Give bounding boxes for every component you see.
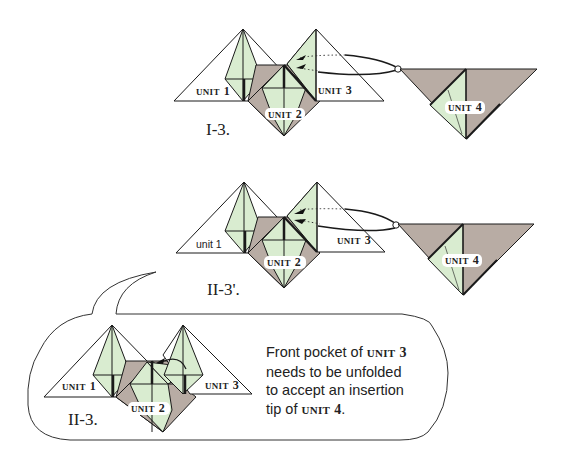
unit-3-label: UNIT3	[337, 233, 371, 247]
step-label-i-3: I-3.	[206, 120, 230, 139]
step-label-ii-3-prime: II-3'.	[207, 280, 240, 299]
unit-2-label: UNIT2	[268, 107, 302, 121]
figure-ii-3-prime: unit 1 UNIT2 UNIT3 UNIT4 II-3'.	[176, 182, 534, 299]
unit-3-label: UNIT3	[318, 83, 352, 97]
unit-4-label: UNIT4	[445, 253, 479, 267]
unit-1-label: UNIT1	[62, 379, 96, 393]
note-line-3: to accept an insertion	[266, 381, 436, 400]
unit-2-label: UNIT2	[267, 255, 301, 269]
unit-3-label: UNIT3	[205, 378, 239, 392]
note-line-4: tip of UNIT 4.	[266, 400, 436, 420]
note-line-2: needs to be unfolded	[266, 363, 436, 382]
unit-2-label: UNIT2	[131, 401, 165, 415]
note-line-1: Front pocket of UNIT 3	[266, 343, 436, 363]
instruction-note: Front pocket of UNIT 3 needs to be unfol…	[266, 343, 436, 419]
unit-1-label: unit 1	[196, 238, 222, 250]
unit-1-label: UNIT1	[196, 84, 230, 98]
step-label-ii-3: II-3.	[68, 410, 98, 429]
unit-4-label: UNIT4	[448, 100, 482, 114]
figure-i-3: UNIT1 UNIT2 UNIT3 UNIT4 I-3.	[174, 29, 537, 139]
